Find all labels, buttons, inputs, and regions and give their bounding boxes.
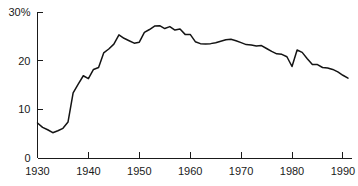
data-series-line (38, 26, 349, 133)
x-axis-tick-labels: 1930194019501960197019801990 (25, 165, 355, 177)
x-tick-label: 1940 (76, 165, 100, 177)
y-axis-ticks (38, 12, 43, 109)
y-axis-tick-labels: 0102030% (8, 6, 30, 164)
x-tick-label: 1970 (229, 165, 253, 177)
y-tick-label: 10 (18, 103, 30, 115)
x-tick-label: 1930 (25, 165, 49, 177)
chart-axes (38, 12, 353, 159)
line-chart: 0102030% 1930194019501960197019801990 (0, 0, 358, 186)
x-axis-ticks (88, 152, 343, 158)
chart-page: 0102030% 1930194019501960197019801990 (0, 0, 358, 186)
x-tick-label: 1960 (178, 165, 202, 177)
y-tick-label: 0 (24, 152, 30, 164)
x-tick-label: 1980 (280, 165, 304, 177)
y-tick-label: 30% (8, 6, 30, 18)
y-tick-label: 20 (18, 55, 30, 67)
x-tick-label: 1950 (127, 165, 151, 177)
x-tick-label: 1990 (331, 165, 355, 177)
